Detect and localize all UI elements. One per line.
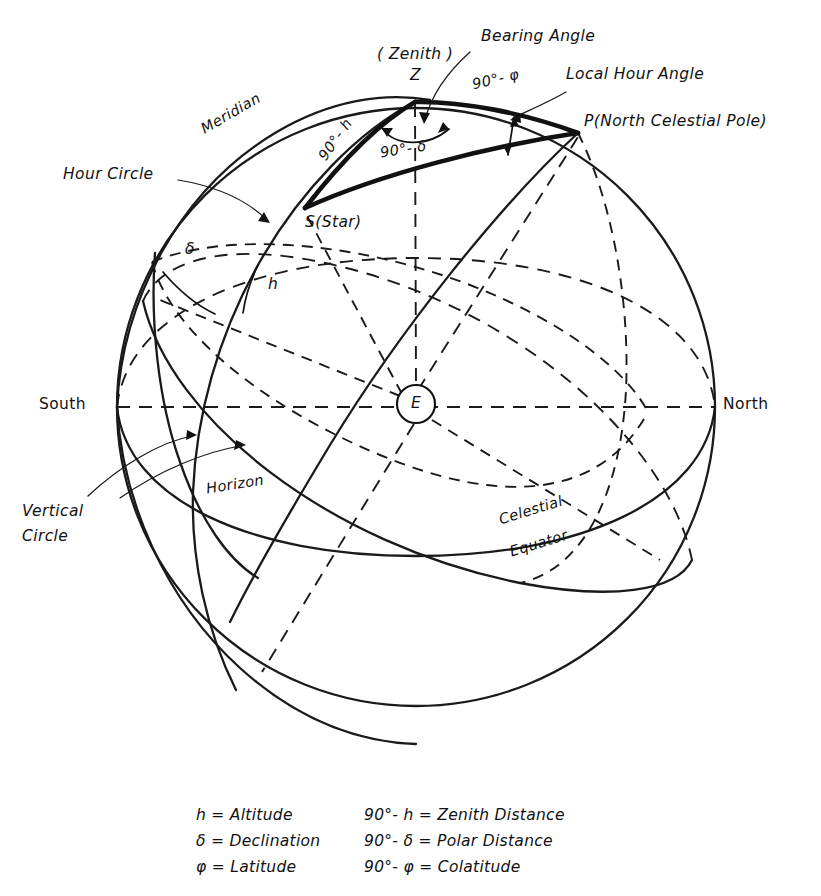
label-earth-center: E (411, 395, 421, 411)
legend-right-polar-distance: 90°- δ = Polar Distance (364, 832, 553, 850)
label-vertical-circle-line2: Circle (22, 528, 68, 544)
legend-left-declination: δ = Declination (196, 832, 364, 850)
arc-star-to-pole (305, 133, 578, 208)
star-radius-line (305, 212, 402, 394)
diagram-canvas: Bearing Angle ( Zenith ) Local Hour Angl… (0, 0, 821, 896)
celestial-sphere-svg (0, 0, 821, 896)
label-hour-circle: Hour Circle (63, 166, 154, 182)
label-south: South (39, 396, 86, 412)
legend-right-colatitude: 90°- φ = Colatitude (364, 858, 521, 876)
declination-parallel-back (152, 244, 648, 412)
leader-vertical-circle-arrowhead (186, 430, 197, 440)
legend-left-latitude: φ = Latitude (196, 858, 364, 876)
legend-left-altitude: h = Altitude (196, 806, 364, 824)
legend-row: φ = Latitude 90°- φ = Colatitude (196, 858, 696, 884)
label-local-hour-angle: Local Hour Angle (566, 66, 704, 82)
label-altitude-symbol: h (268, 276, 278, 292)
label-bearing-angle: Bearing Angle (481, 28, 595, 44)
legend-row: h = Altitude 90°- h = Zenith Distance (196, 806, 696, 832)
label-vertical-circle-line1: Vertical (22, 503, 84, 519)
legend-right-zenith-distance: 90°- h = Zenith Distance (364, 806, 565, 824)
label-zenith-note: ( Zenith ) (377, 46, 453, 62)
declination-angle-mark (163, 272, 215, 314)
leader-bearing-angle-arrowhead (419, 112, 430, 124)
leader-hour-circle (178, 180, 266, 219)
equator-radius-left (160, 300, 400, 396)
legend-row: δ = Declination 90°- δ = Polar Distance (196, 832, 696, 858)
arc-zenith-to-pole (415, 102, 578, 133)
label-north: North (723, 396, 768, 412)
leader-local-hour-angle (513, 92, 566, 118)
declination-parallel-front (152, 262, 648, 487)
polar-axis-lower (262, 424, 414, 672)
label-zenith-symbol: Z (410, 67, 421, 83)
bearing-angle-arrow-left (382, 128, 393, 137)
label-pole: P(North Celestial Pole) (584, 113, 767, 129)
label-star: S(Star) (305, 214, 362, 230)
label-declination-symbol: δ (185, 241, 195, 257)
meridian-arc-lower (117, 407, 416, 744)
local-hour-angle-arrow-bottom (503, 145, 512, 155)
legend-block: h = Altitude 90°- h = Zenith Distance δ … (196, 806, 696, 884)
vertical-circle-arc (193, 102, 415, 690)
